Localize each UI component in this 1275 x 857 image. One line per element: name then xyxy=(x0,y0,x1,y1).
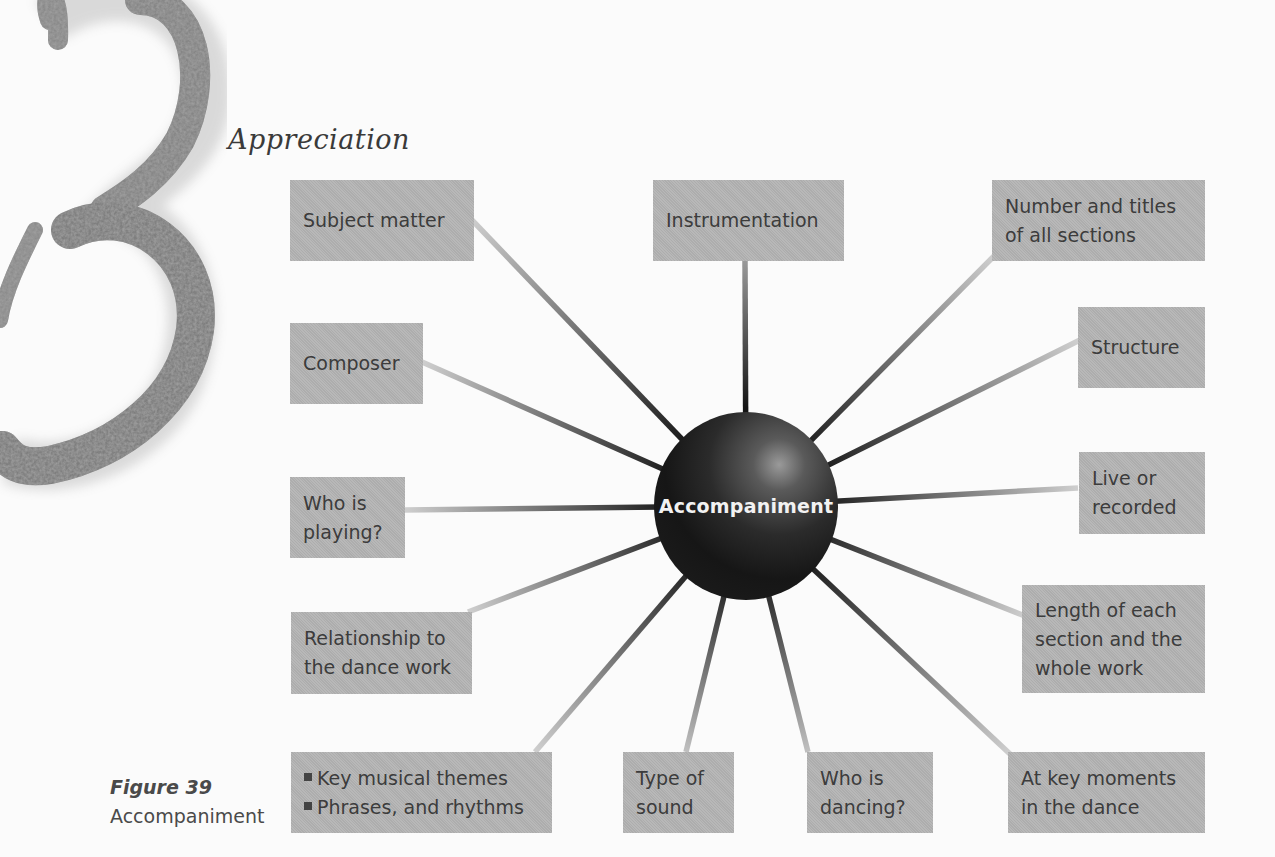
node-label-line-2: dancing? xyxy=(820,793,920,822)
node-instrumentation: Instrumentation xyxy=(653,180,844,261)
node-label-line-3: whole work xyxy=(1035,654,1192,683)
node-label-line-1: Live or xyxy=(1092,464,1192,493)
node-label-line-1: Who is xyxy=(820,764,920,793)
node-number-and-titles: Number and titles of all sections xyxy=(992,180,1205,261)
figure-caption: Figure 39 Accompaniment xyxy=(110,773,264,831)
node-who-is-dancing: Who is dancing? xyxy=(807,752,933,833)
spokes-layer xyxy=(0,0,1275,857)
node-key-moments: At key moments in the dance xyxy=(1008,752,1205,833)
node-label-line-1: Relationship to xyxy=(304,624,459,653)
node-live-or-recorded: Live or recorded xyxy=(1079,452,1205,534)
hub-label: Accompaniment xyxy=(659,495,833,517)
node-label-line-2: section and the xyxy=(1035,625,1192,654)
list-item: Phrases, and rhythms xyxy=(304,793,539,822)
node-label-line-1: Type of xyxy=(636,764,721,793)
node-label-line-2: recorded xyxy=(1092,493,1192,522)
node-label-line-2: in the dance xyxy=(1021,793,1192,822)
node-label-line-1: At key moments xyxy=(1021,764,1192,793)
node-label: Structure xyxy=(1091,333,1192,362)
node-label-line-2: sound xyxy=(636,793,721,822)
node-structure: Structure xyxy=(1078,307,1205,388)
node-label-line-2: the dance work xyxy=(304,653,459,682)
node-label: Composer xyxy=(303,349,410,378)
node-label: Subject matter xyxy=(303,206,461,235)
node-musical-themes: Key musical themes Phrases, and rhythms xyxy=(291,752,552,833)
square-bullet-icon xyxy=(304,773,312,781)
figure-title: Accompaniment xyxy=(110,802,264,831)
node-composer: Composer xyxy=(290,323,423,404)
node-type-of-sound: Type of sound xyxy=(623,752,734,833)
musical-themes-list: Key musical themes Phrases, and rhythms xyxy=(304,764,539,822)
list-item: Key musical themes xyxy=(304,764,539,793)
node-length-of-sections: Length of each section and the whole wor… xyxy=(1022,585,1205,693)
node-label-line-2: playing? xyxy=(303,518,392,547)
node-label-line-1: Number and titles xyxy=(1005,192,1192,221)
node-label-line-2: of all sections xyxy=(1005,221,1192,250)
node-label-line-1: Length of each xyxy=(1035,596,1192,625)
square-bullet-icon xyxy=(304,802,312,810)
node-subject-matter: Subject matter xyxy=(290,180,474,261)
hub-sphere: Accompaniment xyxy=(654,412,838,600)
node-relationship-to-dance: Relationship to the dance work xyxy=(291,612,472,694)
node-label-line-1: Who is xyxy=(303,489,392,518)
node-label: Instrumentation xyxy=(666,206,831,235)
figure-number: Figure 39 xyxy=(110,773,264,802)
node-who-is-playing: Who is playing? xyxy=(290,477,405,558)
